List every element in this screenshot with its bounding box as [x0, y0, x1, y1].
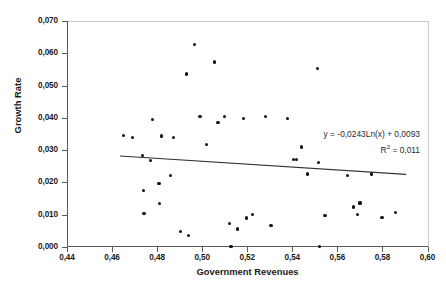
x-axis-tick-label: 0,58	[362, 253, 402, 262]
regression-equation-text: y = -0,0243Ln(x) + 0,0093	[268, 129, 420, 141]
x-axis-tick-label: 0,56	[317, 253, 357, 262]
data-point	[169, 174, 172, 177]
data-point	[216, 121, 219, 124]
data-point	[205, 143, 208, 146]
x-axis-tick	[202, 247, 203, 252]
data-point	[245, 216, 248, 219]
y-axis-tick	[62, 118, 67, 119]
data-point	[236, 227, 239, 230]
data-point	[185, 72, 188, 75]
data-point	[346, 174, 349, 177]
y-axis-tick	[62, 53, 67, 54]
x-axis-tick	[428, 247, 429, 252]
y-axis-tick-label: 0,010	[14, 210, 58, 219]
x-axis-tick	[67, 247, 68, 252]
data-point	[229, 245, 232, 248]
x-axis-title: Government Revenues	[67, 266, 428, 277]
data-point	[228, 222, 231, 225]
y-axis-tick	[62, 150, 67, 151]
data-point	[160, 134, 163, 137]
y-axis-tick	[62, 215, 67, 216]
y-axis-tick-label: 0,070	[14, 16, 58, 25]
x-axis-tick	[382, 247, 383, 252]
data-point	[269, 224, 272, 227]
y-axis-tick	[62, 86, 67, 87]
regression-annotation: y = -0,0243Ln(x) + 0,0093 R2 = 0,011	[268, 129, 420, 156]
x-axis-tick-label: 0,52	[227, 253, 267, 262]
x-axis-tick-label: 0,48	[137, 253, 177, 262]
data-point	[380, 216, 383, 219]
x-axis-tick	[247, 247, 248, 252]
x-axis-tick-label: 0,46	[92, 253, 132, 262]
x-axis-tick-label: 0,54	[272, 253, 312, 262]
data-point	[149, 159, 152, 162]
y-axis-tick-label: 0,000	[14, 242, 58, 251]
r-squared-text: R2 = 0,011	[268, 141, 420, 156]
x-axis-tick	[157, 247, 158, 252]
y-axis-title: Growth Rate	[12, 61, 23, 151]
data-point	[193, 43, 196, 46]
data-point	[151, 118, 154, 121]
data-point	[198, 115, 201, 118]
data-point	[122, 134, 125, 137]
scatter-chart: 0,0000,0100,0200,0300,0400,0500,0600,070…	[0, 0, 446, 284]
y-axis-tick-label: 0,020	[14, 178, 58, 187]
data-point	[318, 245, 321, 248]
data-point	[306, 172, 309, 175]
data-point	[352, 205, 355, 208]
data-point	[157, 182, 160, 185]
data-point	[358, 201, 361, 204]
x-axis-tick-label: 0,50	[182, 253, 222, 262]
x-axis-tick	[337, 247, 338, 252]
y-axis-tick-label: 0,060	[14, 49, 58, 58]
y-axis-tick	[62, 182, 67, 183]
x-axis-tick-label: 0,60	[408, 253, 446, 262]
data-point	[370, 172, 373, 175]
data-point	[187, 234, 190, 237]
x-axis-tick-label: 0,44	[47, 253, 87, 262]
x-axis-tick	[292, 247, 293, 252]
data-point	[295, 158, 298, 161]
data-point	[223, 115, 226, 118]
x-axis-tick	[112, 247, 113, 252]
y-axis-tick	[62, 21, 67, 22]
data-point	[323, 214, 326, 217]
r-squared-value: = 0,011	[390, 144, 420, 154]
data-point	[142, 212, 145, 215]
data-point	[213, 60, 216, 63]
